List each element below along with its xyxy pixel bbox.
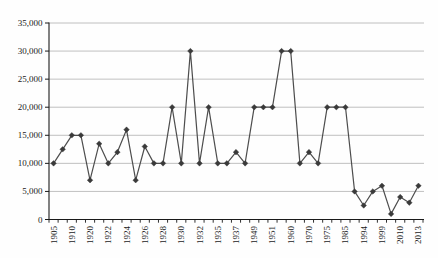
y-axis-label: 20,000 <box>18 102 43 112</box>
x-axis-label: 1928 <box>158 226 168 245</box>
x-axis-label: 1924 <box>122 226 132 245</box>
x-axis-label: 1960 <box>286 226 296 245</box>
data-point-marker <box>206 104 212 110</box>
x-axis-label: 1926 <box>140 226 150 245</box>
data-point-marker <box>343 104 349 110</box>
x-axis-label: 1910 <box>67 226 77 245</box>
x-axis-label: 1935 <box>213 226 223 245</box>
x-axis-label: 2013 <box>413 226 423 245</box>
x-axis-label: 1975 <box>322 226 332 245</box>
data-point-marker <box>261 104 267 110</box>
data-point-marker <box>124 127 130 133</box>
x-axis-label: 1905 <box>49 226 59 245</box>
x-axis-label: 1930 <box>176 226 186 245</box>
x-axis-label: 1937 <box>231 226 241 245</box>
data-line <box>54 51 419 214</box>
data-point-marker <box>407 200 413 206</box>
data-point-marker <box>334 104 340 110</box>
data-point-marker <box>416 183 422 189</box>
y-axis-label: 5,000 <box>22 186 43 196</box>
x-axis-label: 1922 <box>103 226 113 244</box>
data-point-marker <box>279 48 285 54</box>
y-axis-label: 15,000 <box>18 130 43 140</box>
data-point-marker <box>169 104 175 110</box>
data-point-marker <box>288 48 294 54</box>
x-axis-label: 2010 <box>395 226 405 245</box>
x-axis-label: 1999 <box>377 226 387 245</box>
data-point-marker <box>133 177 139 183</box>
x-axis-label: 1932 <box>195 226 205 244</box>
data-point-marker <box>96 141 102 147</box>
x-axis-label: 1970 <box>304 226 314 245</box>
x-axis-label: 1920 <box>85 226 95 245</box>
x-axis-label: 1951 <box>267 226 277 244</box>
data-point-marker <box>78 132 84 138</box>
y-axis-label: 25,000 <box>18 74 43 84</box>
data-point-marker <box>251 104 257 110</box>
data-point-marker <box>142 144 148 150</box>
data-point-marker <box>397 194 403 200</box>
data-point-marker <box>178 161 184 167</box>
y-axis-label: 35,000 <box>18 18 43 28</box>
y-axis-label: 30,000 <box>18 46 43 56</box>
x-axis-label: 1985 <box>340 226 350 245</box>
data-point-marker <box>197 161 203 167</box>
data-point-marker <box>160 161 166 167</box>
y-axis-label: 0 <box>38 215 43 225</box>
data-point-marker <box>151 161 157 167</box>
line-chart-figure: 05,00010,00015,00020,00025,00030,00035,0… <box>0 0 438 258</box>
data-point-marker <box>215 161 221 167</box>
data-point-marker <box>87 177 93 183</box>
x-axis-label: 1994 <box>359 226 369 245</box>
y-axis-label: 10,000 <box>18 158 43 168</box>
data-point-marker <box>388 211 394 217</box>
data-point-marker <box>324 104 330 110</box>
x-axis-label: 1949 <box>249 226 259 245</box>
data-point-marker <box>270 104 276 110</box>
data-point-marker <box>379 183 385 189</box>
data-point-marker <box>188 48 194 54</box>
line-chart-canvas: 05,00010,00015,00020,00025,00030,00035,0… <box>0 0 438 258</box>
